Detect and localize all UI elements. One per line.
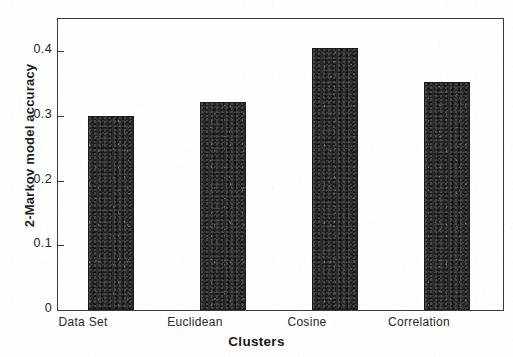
y-tick-label-0.4: 0.4 [18,42,52,56]
y-axis-title: 2-Markov model accuracy [22,21,37,271]
y-tick-label-0.2: 0.2 [18,172,52,186]
y-tick-mark-0.2 [58,116,64,117]
bar-correlation [424,82,470,310]
x-tick-label-euclidean: Euclidean [149,315,241,329]
y-tick-label-0.3: 0.3 [18,107,52,121]
y-tick-mark-0.1 [58,51,64,52]
x-tick-label-cosine: Cosine [261,315,353,329]
figure-bar-chart: 2-Markov model accuracy 0.4 0.3 0.2 0.1 … [0,0,513,357]
bar-cosine [312,48,358,310]
y-tick-label-0.1: 0.1 [18,236,52,250]
x-axis-title: Clusters [0,334,513,349]
y-tick-mark-0.4 [58,245,64,246]
bar-euclidean [200,102,246,310]
x-tick-label-correlation: Correlation [373,315,465,329]
x-tick-label-data-set: Data Set [37,315,129,329]
bar-data-set [88,116,134,310]
plot-area [57,18,504,311]
y-tick-mark-0.3 [58,181,64,182]
y-tick-label-0: 0 [18,301,52,315]
